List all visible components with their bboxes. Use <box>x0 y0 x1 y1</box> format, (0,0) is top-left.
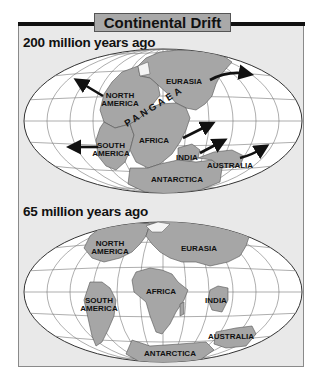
label-india: INDIA <box>176 153 198 162</box>
maps-svg: NORTH AMERICA SOUTH AMERICA EURASIA AFRI… <box>0 0 322 384</box>
map-200mya: NORTH AMERICA SOUTH AMERICA EURASIA AFRI… <box>20 45 306 197</box>
label-eurasia: EURASIA <box>166 77 202 86</box>
label-antarctica: ANTARCTICA <box>151 175 203 184</box>
label-australia: AUSTRALIA <box>208 332 254 341</box>
label-india: INDIA <box>205 296 227 305</box>
label-north-america-2: AMERICA <box>91 247 129 256</box>
label-north-america-2: AMERICA <box>101 99 139 108</box>
label-africa: AFRICA <box>146 287 176 296</box>
map-65mya: NORTH AMERICA SOUTH AMERICA EURASIA AFRI… <box>20 220 306 364</box>
label-eurasia: EURASIA <box>181 244 217 253</box>
label-africa: AFRICA <box>139 136 169 145</box>
label-south-america-2: AMERICA <box>92 149 130 158</box>
label-australia: AUSTRALIA <box>207 161 253 170</box>
label-south-america-2: AMERICA <box>80 304 118 313</box>
label-antarctica: ANTARCTICA <box>144 349 196 358</box>
